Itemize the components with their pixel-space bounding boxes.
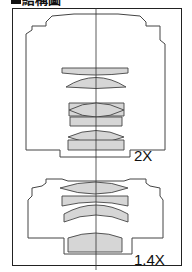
label-2x: 2X: [134, 148, 152, 163]
label-1-4x: 1.4X: [134, 252, 165, 267]
lens-element: [60, 182, 128, 194]
lens-element: [62, 196, 128, 206]
lens-element: [68, 233, 122, 252]
lens-element: [62, 68, 128, 75]
lens-cross-section-diagram: [0, 0, 192, 272]
